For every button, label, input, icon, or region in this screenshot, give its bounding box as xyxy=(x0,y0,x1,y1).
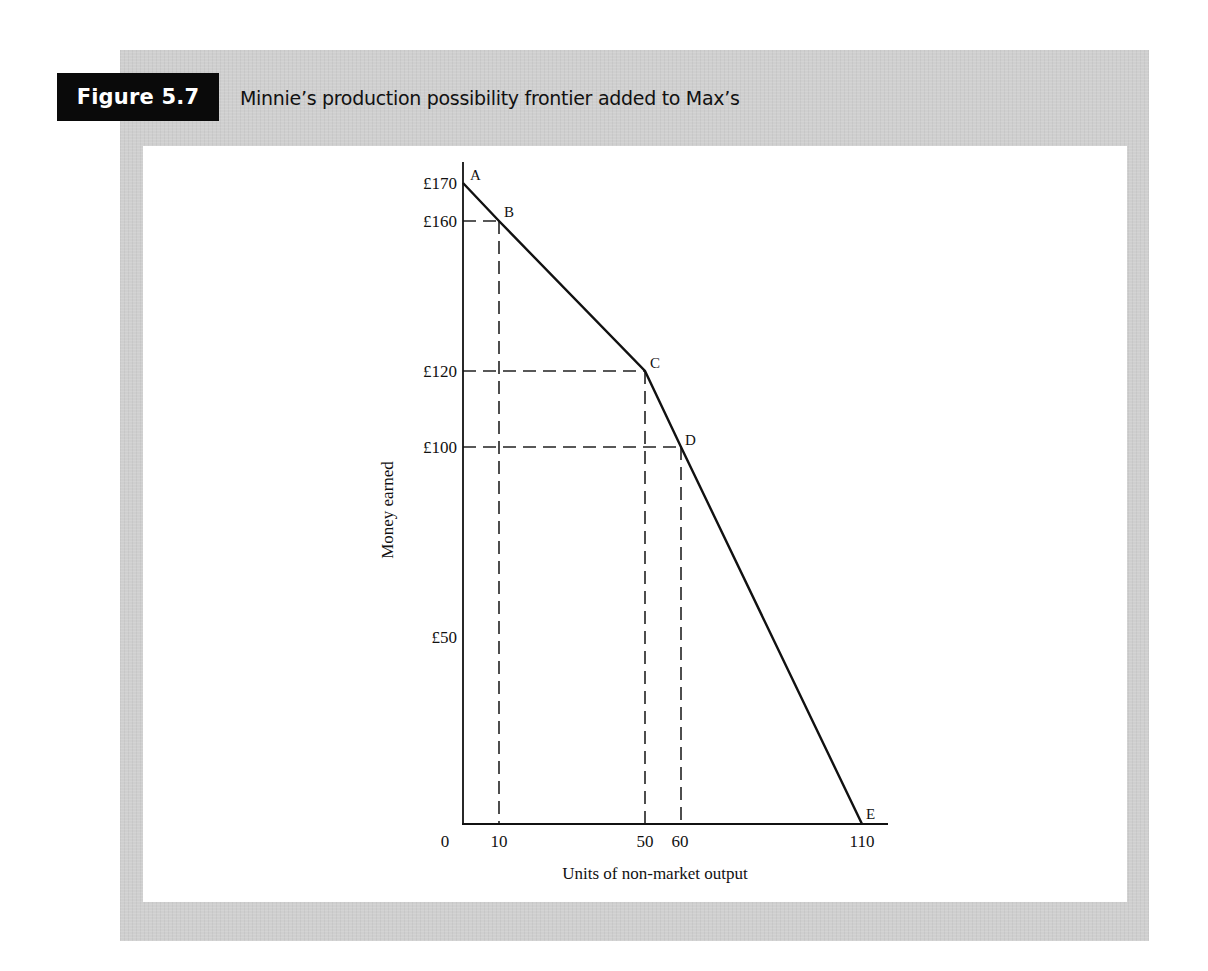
x-tick-110: 110 xyxy=(850,832,875,851)
y-tick-170: £170 xyxy=(423,174,457,193)
y-tick-120: £120 xyxy=(423,362,457,381)
y-tick-160: £160 xyxy=(423,212,457,231)
x-tick-10: 10 xyxy=(491,832,508,851)
x-tick-0: 0 xyxy=(441,832,450,851)
point-label-a: A xyxy=(470,167,481,183)
point-label-c: C xyxy=(650,355,660,371)
point-label-e: E xyxy=(866,806,875,822)
point-label-b: B xyxy=(504,204,514,220)
x-tick-50: 50 xyxy=(637,832,654,851)
y-tick-50: £50 xyxy=(432,628,458,647)
x-axis-title: Units of non-market output xyxy=(562,864,748,883)
point-label-d: D xyxy=(685,432,696,448)
y-axis-title: Money earned xyxy=(378,461,397,559)
ppf-chart: A B C D E £170 £160 £120 £100 £50 0 10 5… xyxy=(0,0,1208,971)
x-tick-60: 60 xyxy=(672,832,689,851)
frontier-line xyxy=(463,183,862,824)
reference-lines xyxy=(463,221,681,824)
y-tick-100: £100 xyxy=(423,438,457,457)
